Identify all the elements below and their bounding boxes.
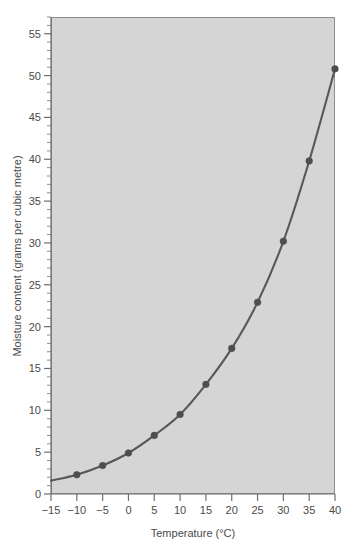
x-axis-tick-label: 20 (226, 504, 238, 516)
y-axis-tick-label: 15 (29, 362, 41, 374)
data-point (125, 450, 132, 457)
x-axis-tick-label: −5 (96, 504, 109, 516)
x-axis-tick-label: 5 (151, 504, 157, 516)
y-axis-tick-label: 40 (29, 153, 41, 165)
x-axis-tick-labels: −15−10−50510152025303540 (42, 504, 341, 516)
x-axis-tick-label: 25 (251, 504, 263, 516)
x-axis-major-ticks (51, 494, 335, 501)
y-axis-tick-label: 55 (29, 28, 41, 40)
moisture-temperature-chart: 0510152025303540455055 −15−10−5051015202… (0, 0, 355, 550)
y-axis-tick-label: 50 (29, 70, 41, 82)
data-point (177, 411, 184, 418)
data-point (203, 381, 210, 388)
data-point (228, 345, 235, 352)
y-axis-major-ticks (44, 34, 51, 494)
y-axis-tick-label: 20 (29, 321, 41, 333)
x-axis-tick-label: −15 (42, 504, 61, 516)
x-axis-title: Temperature (°C) (151, 527, 235, 539)
x-axis-tick-label: 40 (329, 504, 341, 516)
y-axis-tick-label: 30 (29, 237, 41, 249)
data-point (74, 471, 81, 478)
y-axis-title: Moisture content (grams per cubic metre) (11, 155, 23, 356)
x-axis-tick-label: −10 (67, 504, 86, 516)
chart-figure: 0510152025303540455055 −15−10−5051015202… (0, 0, 355, 550)
x-axis-tick-label: 35 (303, 504, 315, 516)
y-axis-tick-label: 25 (29, 279, 41, 291)
data-point (306, 158, 313, 165)
y-axis-tick-label: 10 (29, 404, 41, 416)
x-axis-tick-label: 10 (174, 504, 186, 516)
data-point (151, 432, 158, 439)
plot-area-background (51, 17, 335, 494)
x-axis-tick-label: 0 (125, 504, 131, 516)
data-point (254, 299, 261, 306)
y-axis-tick-label: 45 (29, 111, 41, 123)
data-point (280, 238, 287, 245)
data-point (99, 462, 106, 469)
data-point (332, 66, 339, 73)
y-axis-tick-labels: 0510152025303540455055 (29, 28, 41, 500)
y-axis-tick-label: 5 (35, 446, 41, 458)
x-axis-tick-label: 15 (200, 504, 212, 516)
y-axis-tick-label: 0 (35, 488, 41, 500)
y-axis-tick-label: 35 (29, 195, 41, 207)
x-axis-tick-label: 30 (277, 504, 289, 516)
